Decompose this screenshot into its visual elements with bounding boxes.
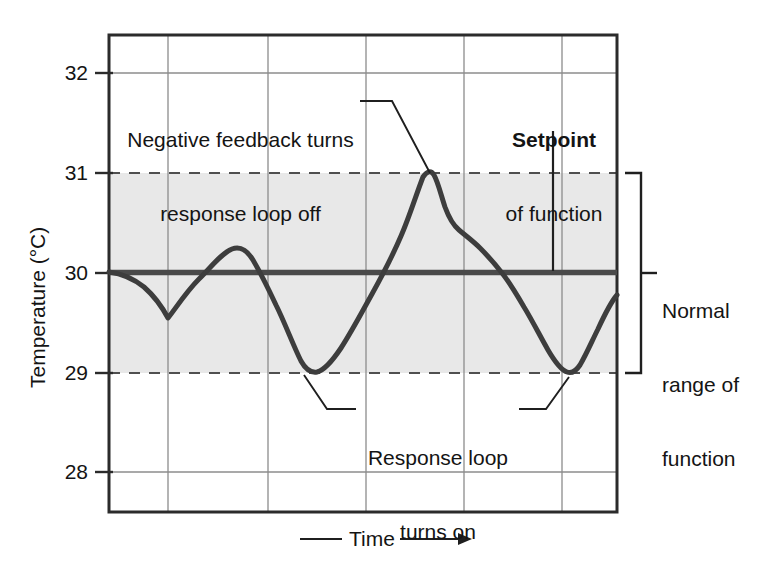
setpoint-annotation: Setpoint of function: [483, 78, 625, 276]
y-axis-title: Temperature (°C): [26, 227, 51, 388]
normal-range-line-3: function: [662, 447, 762, 472]
negative-feedback-line-1: Negative feedback turns: [118, 128, 363, 153]
negative-feedback-leader: [360, 101, 430, 173]
setpoint-line-2: of function: [483, 202, 625, 227]
negative-feedback-annotation: Negative feedback turns response loop of…: [118, 78, 363, 276]
y-tick-label-29: 29: [48, 361, 88, 386]
normal-range-line-1: Normal: [662, 299, 762, 324]
normal-range-label: Normal range of function: [662, 249, 762, 521]
figure-container: 32 31 30 29 28 Temperature (°C) Negative…: [0, 0, 763, 567]
response-loop-line-1: Response loop: [362, 446, 514, 471]
setpoint-line-1: Setpoint: [483, 128, 625, 153]
y-tick-label-32: 32: [48, 61, 88, 86]
x-axis-title: Time: [349, 527, 395, 552]
normal-range-line-2: range of: [662, 373, 762, 398]
negative-feedback-line-2: response loop off: [118, 202, 363, 227]
normal-range-bracket: [625, 173, 657, 373]
y-tick-label-31: 31: [48, 161, 88, 186]
y-tick-label-28: 28: [48, 460, 88, 485]
y-tick-label-30: 30: [48, 261, 88, 286]
